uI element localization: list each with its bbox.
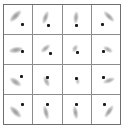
kernel-cell — [63, 95, 91, 124]
point-marker — [21, 23, 24, 26]
kernel-cell — [33, 5, 61, 34]
point-marker — [101, 23, 104, 26]
kernel-cell — [33, 35, 61, 64]
kernel-grid — [3, 4, 121, 125]
point-marker — [21, 50, 24, 53]
kernel-cell — [92, 95, 120, 124]
point-marker — [21, 103, 24, 106]
point-marker — [49, 52, 52, 55]
point-marker — [46, 103, 49, 106]
point-marker — [20, 75, 23, 78]
point-marker — [102, 50, 105, 53]
kernel-cell — [4, 65, 32, 94]
psf-kernel-figure — [0, 0, 125, 129]
motion-blur-streak — [73, 11, 79, 23]
motion-blur-streak — [8, 9, 23, 24]
kernel-cell — [92, 65, 120, 94]
motion-blur-streak — [103, 10, 116, 23]
kernel-cell — [63, 5, 91, 34]
point-marker — [75, 77, 78, 80]
motion-blur-streak — [8, 105, 23, 120]
kernel-cell — [4, 95, 32, 124]
point-marker — [46, 76, 49, 79]
point-marker — [76, 51, 79, 54]
kernel-cell — [63, 65, 91, 94]
point-marker — [103, 103, 106, 106]
point-marker — [75, 24, 78, 27]
motion-blur-streak — [41, 10, 50, 24]
kernel-cell — [92, 35, 120, 64]
point-marker — [102, 76, 105, 79]
kernel-cell — [4, 35, 32, 64]
kernel-cell — [33, 95, 61, 124]
kernel-cell — [33, 65, 61, 94]
point-marker — [47, 24, 50, 27]
motion-blur-streak — [103, 105, 115, 119]
kernel-cell — [63, 35, 91, 64]
motion-blur-streak — [72, 106, 79, 120]
motion-blur-streak — [42, 105, 50, 120]
kernel-cell — [92, 5, 120, 34]
point-marker — [75, 103, 78, 106]
kernel-cell — [4, 5, 32, 34]
